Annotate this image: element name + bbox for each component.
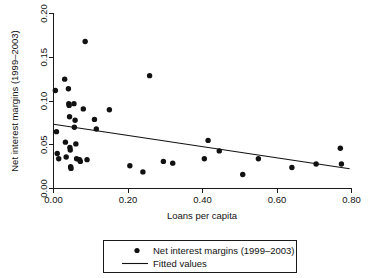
- data-point: [202, 156, 207, 161]
- data-point: [63, 139, 68, 144]
- data-point: [68, 166, 73, 171]
- data-point: [107, 107, 112, 112]
- data-point: [81, 106, 86, 111]
- chart-legend: Net interest margins (1999–2003) Fitted …: [104, 241, 297, 273]
- data-point: [240, 172, 245, 177]
- y-tick-label: 0.10: [38, 92, 49, 111]
- data-point: [54, 129, 59, 134]
- data-point: [66, 86, 71, 91]
- data-point: [55, 151, 60, 156]
- data-point: [140, 169, 145, 174]
- y-tick-label: 0.15: [38, 48, 49, 67]
- data-point: [62, 76, 67, 81]
- legend-marker-scatter-icon: [134, 248, 139, 253]
- data-point: [127, 163, 132, 168]
- data-point: [147, 73, 152, 78]
- data-point: [53, 88, 58, 93]
- data-point: [73, 141, 78, 146]
- chart-figure: 0.20 0.15 0.10 0.05 0.00 0.00 0.20 0.40 …: [0, 0, 376, 278]
- data-point: [161, 159, 166, 164]
- data-point: [82, 39, 87, 44]
- data-point: [67, 114, 72, 119]
- data-point: [56, 156, 61, 161]
- plot-background: [0, 0, 376, 278]
- y-axis-title: Net interest margins (1999–2003): [9, 30, 20, 172]
- x-tick-label: 0.20: [119, 194, 138, 205]
- data-point: [63, 154, 68, 159]
- data-point: [289, 165, 294, 170]
- data-point: [205, 138, 210, 143]
- data-point: [71, 101, 76, 106]
- data-point: [339, 161, 344, 166]
- scatter-plot: 0.20 0.15 0.10 0.05 0.00 0.00 0.20 0.40 …: [0, 0, 376, 278]
- x-axis-title: Loans per capita: [167, 210, 238, 221]
- data-point: [72, 118, 77, 123]
- data-point: [217, 148, 222, 153]
- data-point: [94, 126, 99, 131]
- x-tick-label: 0.60: [268, 194, 287, 205]
- legend-label-scatter: Net interest margins (1999–2003): [153, 245, 295, 256]
- legend-label-fitted: Fitted values: [153, 258, 207, 269]
- data-point: [68, 147, 73, 152]
- y-tick-label: 0.05: [38, 136, 49, 155]
- data-point: [338, 146, 343, 151]
- x-tick-label: 0.80: [342, 194, 361, 205]
- data-point: [92, 117, 97, 122]
- x-tick-label: 0.40: [193, 194, 212, 205]
- data-point: [78, 159, 83, 164]
- data-point: [72, 125, 77, 130]
- data-point: [84, 157, 89, 162]
- y-tick-label: 0.20: [38, 4, 49, 23]
- data-point: [170, 160, 175, 165]
- data-point: [313, 161, 318, 166]
- data-point: [66, 103, 71, 108]
- data-point: [256, 156, 261, 161]
- x-tick-label: 0.00: [44, 194, 63, 205]
